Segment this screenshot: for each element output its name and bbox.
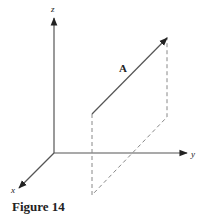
z-axis-label: z	[50, 4, 55, 14]
projection-dashed-lines	[92, 37, 167, 195]
figure-diagram: z y x A	[0, 0, 210, 216]
x-axis-label: x	[10, 185, 15, 195]
y-axis-label: y	[190, 149, 195, 159]
vector-a-label: A	[119, 62, 127, 74]
vector-a-arrow	[92, 38, 167, 114]
x-axis	[19, 153, 54, 188]
figure-caption: Figure 14	[12, 199, 65, 215]
